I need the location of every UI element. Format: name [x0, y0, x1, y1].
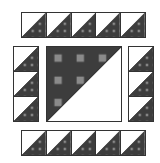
half-square-triangle	[14, 71, 38, 96]
half-square-triangle	[71, 13, 96, 37]
half-square-triangle	[120, 13, 145, 37]
half-square-triangle	[71, 131, 96, 155]
half-square-triangle	[129, 96, 153, 121]
half-square-triangle	[95, 131, 120, 155]
right-triangle-column	[128, 46, 154, 122]
half-square-triangle	[22, 13, 46, 37]
half-square-triangle	[46, 131, 71, 155]
top-triangle-row	[21, 12, 146, 38]
left-triangle-column	[13, 46, 39, 122]
half-square-triangle	[120, 131, 145, 155]
bottom-triangle-row	[21, 130, 146, 156]
center-large-triangle-square	[46, 46, 122, 122]
half-square-triangle	[129, 47, 153, 71]
half-square-triangle	[95, 13, 120, 37]
half-square-triangle	[22, 131, 46, 155]
half-square-triangle	[14, 47, 38, 71]
half-square-triangle	[129, 71, 153, 96]
half-square-triangle	[46, 13, 71, 37]
half-square-triangle	[14, 96, 38, 121]
